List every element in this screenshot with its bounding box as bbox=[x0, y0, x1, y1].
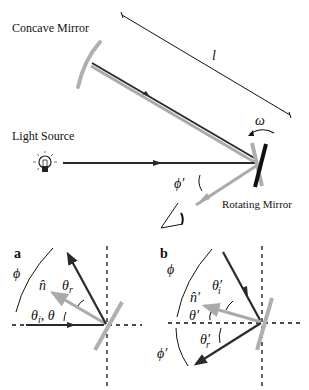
phi-prime-label: ϕ′ bbox=[174, 176, 185, 191]
panel-b-label: b bbox=[160, 246, 168, 261]
theta-arc bbox=[64, 312, 66, 321]
omega-label: ω bbox=[255, 113, 265, 128]
incident-ray bbox=[223, 252, 260, 320]
phi-prime-label: ϕ′ bbox=[157, 346, 168, 361]
incoming-arrow bbox=[153, 160, 162, 166]
theta-r-arc bbox=[78, 300, 84, 306]
light-source-label: Light Source bbox=[12, 129, 74, 143]
rotating-mirror bbox=[252, 143, 266, 187]
normal-label: n̂′ bbox=[190, 290, 201, 305]
normal-label: n̂ bbox=[39, 278, 46, 293]
concave-mirror-label: Concave Mirror bbox=[12, 21, 89, 35]
phi-arc bbox=[16, 248, 53, 312]
theta-i-label: θ′i bbox=[212, 278, 223, 296]
incident-arrow bbox=[242, 286, 248, 297]
theta-r-arc bbox=[219, 328, 221, 343]
concave-mirror bbox=[78, 42, 100, 87]
incident-arrow bbox=[67, 322, 76, 328]
theta-arc bbox=[210, 312, 211, 320]
phi-prime-arc bbox=[176, 328, 188, 366]
lightbulb-icon bbox=[33, 151, 57, 172]
panel-b: b ϕ ϕ′ θ′i n̂′ θ′ θ′r bbox=[157, 246, 300, 388]
phi-prime-arc bbox=[199, 175, 202, 191]
theta-r-label: θr bbox=[62, 278, 73, 295]
rotating-mirror-diagram: Concave Mirror Light Source Rotating Mir… bbox=[0, 0, 309, 390]
outgoing-beam-dark bbox=[92, 63, 256, 159]
phi-label: ϕ bbox=[167, 262, 174, 277]
distance-label: l bbox=[212, 48, 216, 63]
distance-indicator: l bbox=[121, 12, 291, 118]
phi-label: ϕ bbox=[13, 266, 20, 281]
theta-i-arc bbox=[226, 301, 233, 310]
eye-angle-icon bbox=[161, 203, 183, 228]
theta-i-theta-label: θi, θ bbox=[31, 308, 55, 325]
theta-r-label: θ′r bbox=[200, 332, 211, 350]
panel-a-label: a bbox=[14, 246, 21, 261]
rotation-arrow: ω bbox=[248, 113, 274, 136]
main-setup: Concave Mirror Light Source Rotating Mir… bbox=[12, 12, 292, 228]
panel-a: a ϕ n̂ θr θi, θ bbox=[12, 246, 142, 388]
rotating-mirror-label: Rotating Mirror bbox=[222, 198, 292, 210]
theta-label: θ′ bbox=[189, 308, 200, 323]
